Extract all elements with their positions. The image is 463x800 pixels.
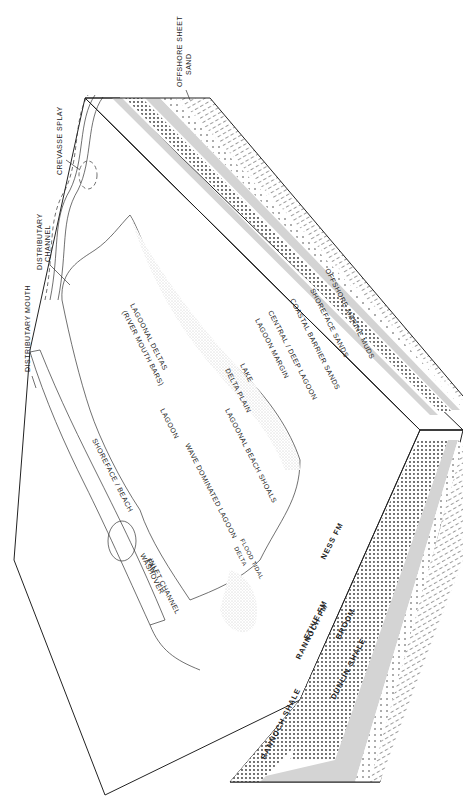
svg-text:OFFSHORE SHEET: OFFSHORE SHEET xyxy=(176,16,183,87)
strata-bands-upper xyxy=(85,98,463,430)
callout-distributary-mouth: DISTRIBUTARY MOUTH xyxy=(24,285,36,388)
callout-offshore-sheet-sand: OFFSHORE SHEET SAND xyxy=(176,16,192,100)
label-wave-dominated-lagoon: WAVE DOMINATED LAGOON xyxy=(184,442,238,539)
svg-text:CHANNEL: CHANNEL xyxy=(44,225,51,262)
surface-labels: SHOREFACE / BEACH INLET CHANNEL WASHOVER… xyxy=(91,302,278,615)
label-lagoon: LAGOON xyxy=(159,407,180,440)
svg-text:DISTRIBUTARY MOUTH: DISTRIBUTARY MOUTH xyxy=(24,285,31,372)
svg-text:SAND: SAND xyxy=(185,54,192,75)
block-diagram: OFFSHORE SHEET SAND CREVASSE SPLAY DISTR… xyxy=(0,0,463,800)
right-section-face xyxy=(85,98,463,430)
label-lagoon-margin: LAGOON MARGIN xyxy=(254,317,290,379)
svg-text:DISTRIBUTARY: DISTRIBUTARY xyxy=(36,213,43,270)
label-ness-fm: NESS FM xyxy=(319,521,345,561)
callout-distributary-channel: DISTRIBUTARY CHANNEL xyxy=(36,213,70,285)
svg-text:CREVASSE SPLAY: CREVASSE SPLAY xyxy=(56,106,63,175)
